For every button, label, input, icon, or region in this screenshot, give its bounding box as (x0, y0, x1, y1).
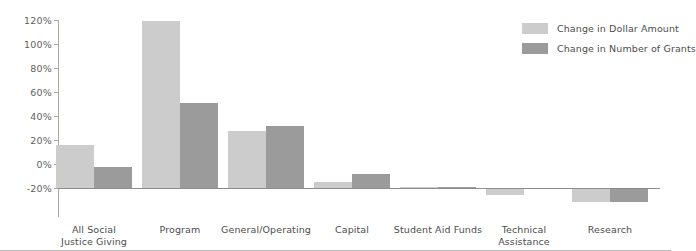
x-axis-label-line: Research (550, 224, 670, 236)
y-tick-label: 100% (8, 39, 52, 50)
bar-dollar-amount (486, 188, 524, 195)
bar-number-of-grants (610, 188, 648, 202)
bar-number-of-grants (352, 174, 390, 188)
y-tick-label: -20% (8, 183, 52, 194)
y-tick-label: 60% (8, 87, 52, 98)
y-tick-label: 0% (8, 159, 52, 170)
x-axis-label-line: Assistance (464, 236, 584, 248)
bar-number-of-grants (94, 167, 132, 188)
legend-swatch-dollar-amount (522, 23, 548, 34)
x-axis-label: Research (550, 224, 670, 236)
bar-dollar-amount (228, 131, 266, 188)
zero-baseline (58, 188, 660, 189)
y-axis: 120% 100% 80% 60% 40% 20% 0% -20% (0, 0, 52, 251)
legend-label: Change in Dollar Amount (557, 23, 679, 34)
y-tick-label: 40% (8, 111, 52, 122)
bar-number-of-grants (180, 103, 218, 188)
y-tick-label: 120% (8, 15, 52, 26)
legend-label: Change in Number of Grants (557, 43, 696, 54)
bar-dollar-amount (56, 145, 94, 188)
bar-number-of-grants (266, 126, 304, 188)
legend-item: Change in Number of Grants (522, 42, 696, 54)
chart-legend: Change in Dollar Amount Change in Number… (522, 22, 696, 62)
y-tick-label: 20% (8, 135, 52, 146)
y-tick-label: 80% (8, 63, 52, 74)
legend-swatch-number-of-grants (522, 43, 548, 54)
bar-dollar-amount (142, 21, 180, 188)
bar-dollar-amount (572, 188, 610, 202)
x-axis-label-line: Justice Giving (34, 236, 154, 248)
legend-item: Change in Dollar Amount (522, 22, 696, 34)
